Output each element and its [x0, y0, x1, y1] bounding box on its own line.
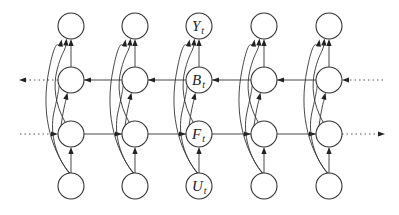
- node-circle: [316, 121, 342, 147]
- forward-arrowhead: [309, 131, 316, 136]
- input-to-output-arrowhead: [316, 40, 321, 47]
- node-circle: [122, 173, 148, 199]
- input-to-forward-arrowhead: [68, 147, 73, 154]
- node-b-1: [58, 67, 84, 93]
- node-y-2: [122, 13, 148, 39]
- input-to-output-arrowhead: [58, 40, 63, 47]
- input-to-output-arrowhead: [186, 40, 191, 47]
- backward-continuation-left-arrowhead: [19, 77, 26, 82]
- forward-to-backward-arrowhead: [256, 93, 261, 100]
- forward-arrowhead: [244, 131, 251, 136]
- node-circle: [316, 173, 342, 199]
- backward-arrowhead: [84, 77, 91, 82]
- backward-arrowhead: [148, 77, 155, 82]
- node-f-2: [122, 121, 148, 147]
- backward-arrowhead: [277, 77, 284, 82]
- forward-to-backward-arrowhead: [321, 93, 326, 100]
- node-u-4: [251, 173, 277, 199]
- forward-to-output-arrowhead: [256, 39, 261, 46]
- forward-to-backward-arrowhead: [191, 93, 196, 100]
- backward-to-output-arrowhead: [196, 39, 201, 46]
- node-u-5: [316, 173, 342, 199]
- node-circle: [122, 13, 148, 39]
- forward-to-output-arrowhead: [127, 39, 132, 46]
- input-to-forward-arrowhead: [132, 147, 137, 154]
- node-circle: [58, 67, 84, 93]
- backward-arrowhead: [212, 77, 219, 82]
- input-to-forward-arrowhead: [326, 147, 331, 154]
- forward-arrowhead: [115, 131, 122, 136]
- backward-to-output-arrowhead: [261, 39, 266, 46]
- node-u-2: [122, 173, 148, 199]
- brnn-diagram: YtBtFtUt: [0, 0, 399, 215]
- backward-continuation-right-arrowhead: [342, 77, 349, 82]
- forward-to-backward-arrowhead: [63, 93, 68, 100]
- node-circle: [251, 121, 277, 147]
- node-circle: [316, 67, 342, 93]
- node-y-1: [58, 13, 84, 39]
- node-y-4: [251, 13, 277, 39]
- node-circle: [58, 121, 84, 147]
- backward-to-output-arrowhead: [326, 39, 331, 46]
- node-u-1: [58, 173, 84, 199]
- node-b-2: [122, 67, 148, 93]
- nodes: YtBtFtUt: [58, 13, 342, 199]
- edges: [19, 39, 385, 174]
- node-circle: [251, 173, 277, 199]
- forward-to-backward-arrowhead: [127, 93, 132, 100]
- node-circle: [316, 13, 342, 39]
- input-to-forward-arrowhead: [196, 147, 201, 154]
- node-f-3: Ft: [186, 121, 212, 147]
- node-circle: [122, 67, 148, 93]
- node-b-4: [251, 67, 277, 93]
- backward-to-output-arrowhead: [132, 39, 137, 46]
- forward-continuation-right-arrowhead: [378, 131, 385, 136]
- node-circle: [122, 121, 148, 147]
- node-f-4: [251, 121, 277, 147]
- node-y-3: Yt: [186, 13, 212, 39]
- forward-to-output-arrowhead: [63, 39, 68, 46]
- input-to-output-arrowhead: [122, 40, 127, 47]
- node-circle: [251, 13, 277, 39]
- forward-continuation-left-arrowhead: [51, 131, 58, 136]
- forward-to-output-arrowhead: [321, 39, 326, 46]
- backward-to-output-arrowhead: [68, 39, 73, 46]
- node-b-5: [316, 67, 342, 93]
- node-circle: [58, 13, 84, 39]
- forward-arrowhead: [179, 131, 186, 136]
- node-circle: [58, 173, 84, 199]
- input-to-forward-arrowhead: [261, 147, 266, 154]
- node-circle: [251, 67, 277, 93]
- forward-to-output-arrowhead: [191, 39, 196, 46]
- input-to-output-arrowhead: [251, 40, 256, 47]
- node-y-5: [316, 13, 342, 39]
- node-b-3: Bt: [186, 67, 212, 93]
- node-u-3: Ut: [186, 173, 212, 199]
- node-f-5: [316, 121, 342, 147]
- node-f-1: [58, 121, 84, 147]
